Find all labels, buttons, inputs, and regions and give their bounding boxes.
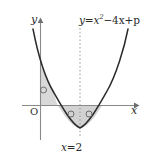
axis-of-symmetry-label: x=2 <box>61 142 82 153</box>
equation-equals: = <box>85 14 94 26</box>
x-axis-label: x <box>131 105 137 116</box>
curve-equation-label: y=x2−4x+p <box>79 14 140 25</box>
origin-label: O <box>30 107 38 117</box>
equation-remainder: −4x+p <box>103 14 139 26</box>
y-axis-label: y <box>31 14 37 25</box>
math-figure-parabola: y=x2−4x+p y x O x=2 <box>0 0 161 165</box>
symmetry-value: 2 <box>76 141 83 153</box>
shaded-region-above-axis-left <box>40 67 57 105</box>
y-axis-arrow-icon <box>38 18 44 24</box>
symmetry-equals: = <box>67 141 76 153</box>
